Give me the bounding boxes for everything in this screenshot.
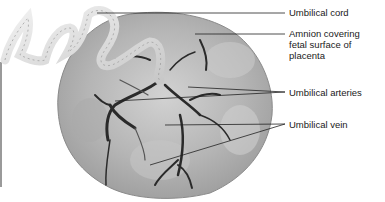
label-umbilical-cord: Umbilical cord [289,7,349,18]
label-umbilical-arteries: Umbilical arteries [289,87,362,98]
label-umbilical-vein: Umbilical vein [289,119,348,130]
placenta-disc [58,12,273,198]
placenta-figure: Umbilical cord Amnion covering fetal sur… [0,0,385,202]
label-amnion: Amnion covering fetal surface of placent… [289,28,360,61]
